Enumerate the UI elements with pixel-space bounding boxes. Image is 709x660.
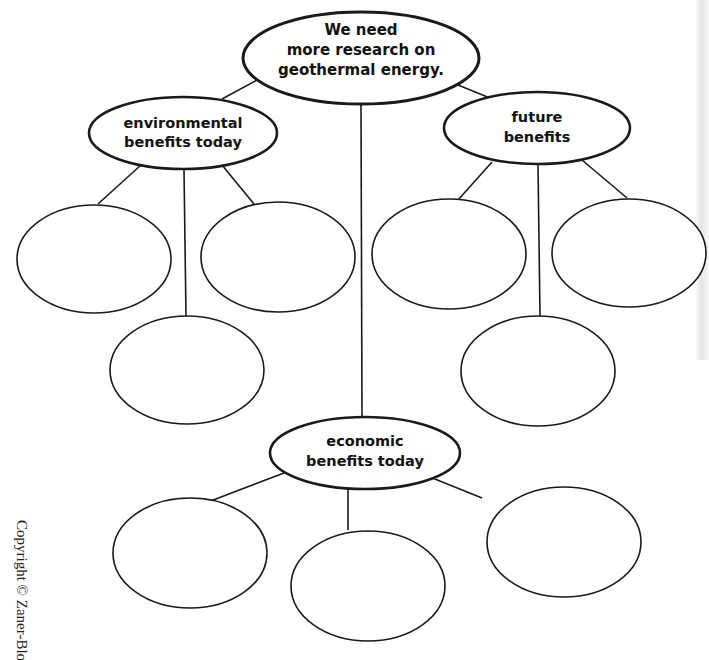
- connector-env-2: [184, 169, 186, 316]
- blank-circle-future-3[interactable]: [461, 316, 615, 426]
- connector-main-econ: [361, 104, 362, 417]
- category-label-line-2: benefits: [504, 129, 571, 145]
- connector-env-3: [222, 165, 254, 204]
- category-label-line-1: future: [512, 109, 563, 125]
- blank-circle-future-2[interactable]: [552, 199, 706, 307]
- connector-future-2: [538, 164, 540, 316]
- category-ellipse: [89, 97, 277, 169]
- category-node-economic: economic benefits today: [270, 417, 460, 489]
- category-node-future: future benefits: [444, 92, 630, 164]
- category-label-line-2: benefits today: [124, 134, 242, 150]
- blank-circle-econ-3[interactable]: [487, 487, 641, 597]
- web-diagram: We need more research on geothermal ener…: [0, 0, 709, 660]
- category-label-line-2: benefits today: [306, 453, 424, 469]
- connector-main-future: [458, 85, 490, 98]
- connector-env-1: [98, 165, 141, 204]
- connector-econ-1: [208, 473, 284, 502]
- main-idea-line-3: geothermal energy.: [278, 61, 444, 79]
- category-label-line-1: environmental: [124, 115, 243, 131]
- category-label-line-1: economic: [326, 433, 403, 449]
- copyright-notice: Copyright © Zaner-Bloser, Inc.: [12, 520, 32, 652]
- connector-main-env: [222, 80, 257, 99]
- main-idea-line-1: We need: [324, 21, 397, 39]
- blank-circle-econ-2[interactable]: [291, 531, 445, 641]
- main-idea-node: We need more research on geothermal ener…: [243, 12, 479, 104]
- blank-circle-env-2[interactable]: [201, 202, 355, 312]
- connector-future-1: [458, 162, 492, 200]
- main-idea-line-2: more research on: [287, 41, 436, 59]
- blank-circle-econ-1[interactable]: [113, 498, 267, 608]
- blank-circle-future-1[interactable]: [372, 199, 526, 309]
- category-node-environmental: environmental benefits today: [89, 97, 277, 169]
- blank-circle-env-3[interactable]: [110, 316, 264, 424]
- category-ellipse: [444, 92, 630, 164]
- blank-circle-env-1[interactable]: [17, 205, 171, 313]
- connector-future-3: [582, 160, 627, 198]
